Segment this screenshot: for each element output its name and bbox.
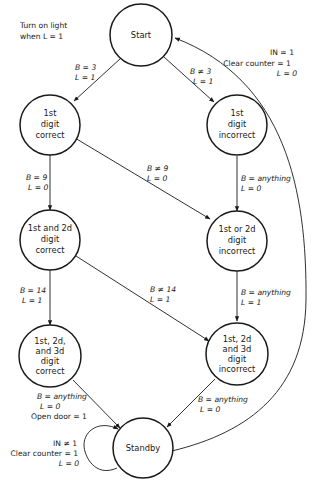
svg-text:correct: correct (35, 366, 65, 376)
state-1st-2d-3d-digit-correct: 1st, 2d, and 3d digit correct (19, 325, 81, 387)
svg-text:L = 1: L = 1 (193, 77, 213, 86)
label-start-to-d1c: B = 3 L = 1 (75, 63, 96, 82)
svg-text:digit: digit (228, 119, 247, 129)
label-d123i-to-standby: B = anything L = 0 (198, 395, 248, 414)
state-standby: Standby (113, 418, 173, 478)
svg-text:when L = 1: when L = 1 (20, 32, 63, 41)
svg-text:and 3d: and 3d (36, 346, 65, 356)
svg-text:1st, 2d: 1st, 2d (223, 334, 252, 344)
svg-text:1st: 1st (231, 108, 245, 118)
svg-text:correct: correct (35, 130, 65, 140)
svg-text:L = 1: L = 1 (22, 296, 42, 305)
svg-text:digit: digit (228, 354, 247, 364)
svg-text:B ≠ 3: B ≠ 3 (190, 67, 211, 76)
svg-text:B = anything: B = anything (198, 395, 248, 404)
svg-text:Open door = 1: Open door = 1 (31, 412, 87, 421)
svg-text:IN = 1: IN = 1 (270, 48, 294, 57)
svg-text:Start: Start (131, 30, 152, 40)
svg-text:digit: digit (41, 234, 60, 244)
svg-text:Clear counter = 1: Clear counter = 1 (223, 59, 291, 68)
svg-text:L = 1: L = 1 (75, 73, 95, 82)
svg-text:Clear counter = 1: Clear counter = 1 (10, 449, 78, 458)
svg-text:B = anything: B = anything (241, 288, 291, 297)
state-diagram: Start 1st digit correct 1st digit incorr… (0, 0, 317, 492)
svg-text:L = 0: L = 0 (241, 184, 261, 193)
svg-text:L = 1: L = 1 (150, 295, 170, 304)
svg-text:B ≠ 9: B ≠ 9 (147, 164, 168, 173)
edge-d12c-to-d123i (76, 256, 209, 341)
label-d12i-to-d123i: B = anything L = 1 (241, 288, 291, 307)
edges (50, 38, 306, 471)
svg-text:L = 0: L = 0 (200, 405, 220, 414)
svg-text:1st or 2d: 1st or 2d (218, 224, 255, 234)
state-1st-digit-incorrect: 1st digit incorrect (207, 95, 267, 155)
svg-text:B = anything: B = anything (37, 392, 87, 401)
svg-text:L = 0: L = 0 (40, 402, 60, 411)
svg-text:1st and 2d: 1st and 2d (28, 223, 72, 233)
state-1st-or-2d-digit-incorrect: 1st or 2d digit incorrect (207, 211, 267, 271)
svg-text:correct: correct (35, 245, 65, 255)
state-1st-and-2d-digit-correct: 1st and 2d digit correct (20, 210, 80, 270)
svg-text:digit: digit (41, 119, 60, 129)
svg-text:and 3d: and 3d (223, 344, 252, 354)
label-d1c-to-d12i: B ≠ 9 L = 0 (147, 164, 168, 183)
label-d12c-to-d123c: B = 14 L = 1 (20, 286, 46, 305)
svg-text:incorrect: incorrect (219, 364, 256, 374)
label-d123c-to-standby: B = anything L = 0 Open door = 1 (31, 392, 87, 421)
label-start-to-d1i: B ≠ 3 L = 1 (190, 67, 213, 86)
svg-text:B = 9: B = 9 (26, 173, 47, 182)
svg-text:B ≠ 14: B ≠ 14 (150, 285, 176, 294)
svg-text:1st, 2d,: 1st, 2d, (34, 336, 65, 346)
label-d1i-to-d12i: B = anything L = 0 (241, 174, 291, 193)
svg-text:L = 1: L = 1 (241, 298, 261, 307)
svg-text:B = anything: B = anything (241, 174, 291, 183)
svg-text:incorrect: incorrect (219, 246, 256, 256)
svg-text:digit: digit (228, 235, 247, 245)
svg-text:L = 0: L = 0 (277, 69, 297, 78)
svg-text:incorrect: incorrect (219, 130, 256, 140)
svg-text:B = 3: B = 3 (75, 63, 96, 72)
label-d12c-to-d123i: B ≠ 14 L = 1 (150, 285, 176, 304)
svg-text:B = 14: B = 14 (20, 286, 46, 295)
svg-text:L = 0: L = 0 (147, 174, 167, 183)
state-1st-digit-correct: 1st digit correct (20, 95, 80, 155)
svg-text:L = 0: L = 0 (59, 459, 79, 468)
edge-d1c-to-d12i (75, 138, 210, 219)
svg-text:Turn on light: Turn on light (19, 21, 67, 30)
label-d1c-to-d12c: B = 9 L = 0 (26, 173, 48, 192)
svg-text:L = 0: L = 0 (28, 183, 48, 192)
note-light: Turn on light when L = 1 (19, 21, 67, 41)
svg-text:1st: 1st (44, 108, 58, 118)
svg-text:digit: digit (41, 356, 60, 366)
state-start: Start (110, 4, 172, 66)
svg-text:Standby: Standby (126, 443, 160, 453)
svg-text:IN ≠ 1: IN ≠ 1 (53, 439, 77, 448)
state-1st-2d-3d-digit-incorrect: 1st, 2d and 3d digit incorrect (206, 323, 268, 385)
label-standby-self-loop: IN ≠ 1 Clear counter = 1 L = 0 (10, 439, 79, 468)
